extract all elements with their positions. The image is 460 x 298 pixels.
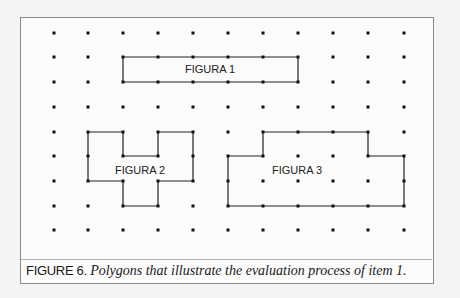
grid-dot: [403, 205, 406, 208]
grid-dot: [87, 229, 90, 232]
grid-dot: [367, 155, 370, 158]
caption-text: Polygons that illustrate the evaluation …: [90, 263, 406, 278]
polygons: [88, 57, 404, 206]
grid-dot: [262, 81, 265, 84]
grid-dot: [157, 131, 160, 134]
grid-dot: [297, 180, 300, 183]
grid-dot: [122, 106, 125, 109]
grid-dot: [297, 56, 300, 59]
grid-dot: [297, 131, 300, 134]
grid-dot: [122, 205, 125, 208]
caption-separator: [21, 259, 432, 260]
grid-dot: [157, 106, 160, 109]
grid-dot: [227, 205, 230, 208]
grid-dot: [53, 81, 56, 84]
grid-dot: [367, 131, 370, 134]
grid-dot: [122, 180, 125, 183]
grid-dot: [297, 106, 300, 109]
grid-dot: [192, 106, 195, 109]
grid-dot: [87, 131, 90, 134]
grid-dot: [192, 131, 195, 134]
grid-dot: [262, 205, 265, 208]
polygon-label-2: FIGURA 2: [115, 164, 165, 176]
grid-dot: [403, 229, 406, 232]
grid-dot: [157, 32, 160, 35]
grid-dot: [53, 32, 56, 35]
grid-dot: [122, 229, 125, 232]
grid-dot: [87, 155, 90, 158]
grid-dot: [53, 205, 56, 208]
grid-dot: [192, 205, 195, 208]
grid-dot: [87, 56, 90, 59]
polygon-label-3: FIGURA 3: [272, 164, 322, 176]
grid-dot: [332, 180, 335, 183]
grid-dot: [157, 205, 160, 208]
grid-dot: [297, 205, 300, 208]
grid-dot: [192, 155, 195, 158]
grid-dot: [122, 131, 125, 134]
grid-dot: [332, 32, 335, 35]
grid-dot: [157, 229, 160, 232]
grid-dot: [332, 229, 335, 232]
grid-dot: [192, 229, 195, 232]
grid-dot: [227, 155, 230, 158]
grid-dot: [122, 81, 125, 84]
grid-dot: [297, 81, 300, 84]
grid-dot: [157, 81, 160, 84]
grid-dot: [227, 131, 230, 134]
grid-dot: [332, 131, 335, 134]
grid-dot: [262, 229, 265, 232]
grid-dot: [157, 155, 160, 158]
grid-dot: [87, 205, 90, 208]
grid-dot: [403, 180, 406, 183]
grid-dot: [262, 180, 265, 183]
grid-dot: [262, 106, 265, 109]
grid-dot: [122, 32, 125, 35]
grid-dot: [367, 32, 370, 35]
grid-dot: [332, 81, 335, 84]
grid-dot: [367, 106, 370, 109]
grid-dot: [53, 56, 56, 59]
grid-dot: [403, 106, 406, 109]
grid-dot: [87, 32, 90, 35]
grid-dot: [192, 32, 195, 35]
grid-dot: [192, 180, 195, 183]
grid-dot: [122, 155, 125, 158]
grid-dot: [297, 155, 300, 158]
grid-dot: [227, 32, 230, 35]
grid-dot: [332, 155, 335, 158]
grid-dot: [262, 56, 265, 59]
grid-dot: [87, 81, 90, 84]
polygon-labels: FIGURA 1FIGURA 2FIGURA 3: [115, 63, 322, 176]
figure-caption: FIGURE 6. Polygons that illustrate the e…: [26, 263, 407, 279]
grid-dot: [332, 56, 335, 59]
grid-dot: [53, 131, 56, 134]
grid-dot: [192, 56, 195, 59]
grid-dot: [227, 56, 230, 59]
grid-dot: [403, 155, 406, 158]
grid-dot: [332, 205, 335, 208]
grid-dot: [332, 106, 335, 109]
grid-dot: [297, 229, 300, 232]
caption-label: FIGURE 6.: [26, 263, 87, 278]
grid-dot: [122, 56, 125, 59]
grid-dot: [367, 81, 370, 84]
grid-dot: [53, 106, 56, 109]
grid-dot: [53, 155, 56, 158]
grid-dot: [227, 106, 230, 109]
grid-dot: [87, 106, 90, 109]
grid-dot: [367, 229, 370, 232]
grid-dot: [403, 81, 406, 84]
grid-dot: [403, 32, 406, 35]
grid-dot: [157, 180, 160, 183]
grid-dot: [87, 180, 90, 183]
grid-dot: [227, 180, 230, 183]
polygon-grid-figure: FIGURA 1FIGURA 2FIGURA 3: [0, 0, 460, 298]
grid-dot: [227, 81, 230, 84]
grid-dot: [297, 32, 300, 35]
grid-dot: [262, 32, 265, 35]
grid-dot: [367, 205, 370, 208]
grid-dot: [403, 56, 406, 59]
grid-dot: [403, 131, 406, 134]
polygon-label-1: FIGURA 1: [185, 63, 235, 75]
